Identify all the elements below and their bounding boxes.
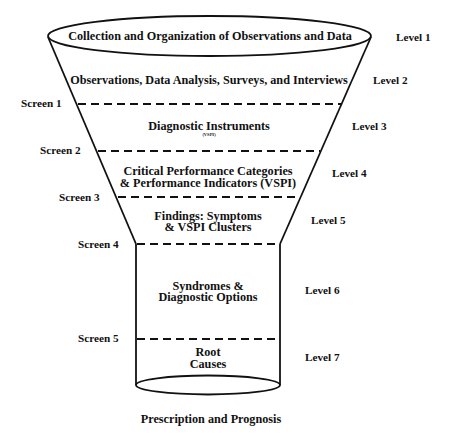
level-3-text: Diagnostic Instruments bbox=[148, 120, 270, 132]
funnel-right-edge bbox=[280, 37, 371, 244]
level-1-text: Collection and Organization of Observati… bbox=[68, 30, 352, 42]
screen-1-label: Screen 1 bbox=[21, 98, 62, 109]
screen-4-label: Screen 4 bbox=[78, 239, 119, 250]
level-5-label: Level 5 bbox=[311, 215, 346, 226]
level-7-text-line-2: Causes bbox=[190, 358, 227, 370]
level-6-label: Level 6 bbox=[305, 285, 340, 296]
screen-3-label: Screen 3 bbox=[59, 192, 100, 203]
funnel-left-edge bbox=[48, 37, 136, 244]
cylinder-bottom-ellipse bbox=[136, 376, 280, 395]
screen-2-label: Screen 2 bbox=[40, 145, 81, 156]
level-7-label: Level 7 bbox=[305, 352, 340, 363]
level-2-text: Observations, Data Analysis, Surveys, an… bbox=[70, 74, 348, 86]
screen-5-label: Screen 5 bbox=[78, 333, 119, 344]
level-2-label: Level 2 bbox=[373, 75, 408, 86]
level-1-label: Level 1 bbox=[396, 32, 431, 43]
level-6-text-line-2: Diagnostic Options bbox=[158, 291, 257, 303]
level-3-label: Level 3 bbox=[352, 121, 387, 132]
level-3-subtext: (VSPI) bbox=[202, 133, 215, 138]
level-4-label: Level 4 bbox=[332, 168, 367, 179]
level-5-text-line-2: & VSPI Clusters bbox=[164, 221, 251, 233]
funnel-diagram: Collection and Organization of Observati… bbox=[0, 0, 449, 436]
diagram-caption: Prescription and Prognosis bbox=[141, 413, 281, 425]
level-4-text-line-2: & Performance Indicators (VSPI) bbox=[120, 177, 296, 189]
